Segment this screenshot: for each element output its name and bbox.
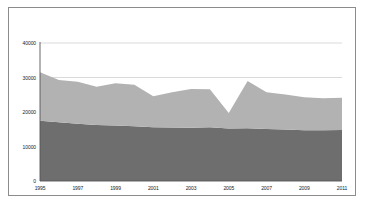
plot-area: 010000200003000040000 199519971999200120… [9, 8, 355, 195]
x-tick-label: 2003 [186, 185, 197, 191]
x-tick-label: 1999 [110, 185, 121, 191]
stacked-area-chart [9, 8, 357, 197]
x-tick-label: 2011 [337, 185, 347, 191]
y-tick-label: 30000 [9, 75, 36, 81]
x-tick-label: 1997 [72, 185, 83, 191]
y-tick-label: 40000 [9, 40, 36, 46]
area-series-group [40, 72, 342, 181]
x-tick-label: 2009 [299, 185, 310, 191]
chart-frame: 010000200003000040000 199519971999200120… [8, 7, 356, 196]
x-tick-label: 1995 [35, 185, 46, 191]
y-tick-label: 20000 [9, 109, 36, 115]
area-series-upper [40, 72, 342, 130]
x-tick-label: 2007 [261, 185, 272, 191]
x-tick-label: 2001 [148, 185, 159, 191]
x-tick-label: 2005 [223, 185, 234, 191]
gridlines [40, 43, 342, 78]
y-tick-label: 0 [9, 178, 36, 184]
y-tick-label: 10000 [9, 144, 36, 150]
